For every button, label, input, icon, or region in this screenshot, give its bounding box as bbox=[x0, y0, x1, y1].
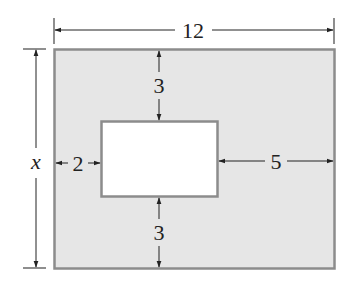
top-margin-label: 3 bbox=[154, 73, 165, 98]
right-margin-label: 5 bbox=[271, 149, 282, 174]
diagram-canvas: 12 x 3 3 2 5 bbox=[0, 0, 352, 288]
width-dimension: 12 bbox=[54, 18, 334, 44]
width-label: 12 bbox=[182, 18, 204, 43]
height-dimension: x bbox=[23, 49, 46, 268]
left-margin-label: 2 bbox=[73, 151, 84, 176]
height-label: x bbox=[30, 149, 41, 174]
bottom-margin-label: 3 bbox=[154, 220, 165, 245]
inner-rectangle bbox=[102, 122, 218, 197]
